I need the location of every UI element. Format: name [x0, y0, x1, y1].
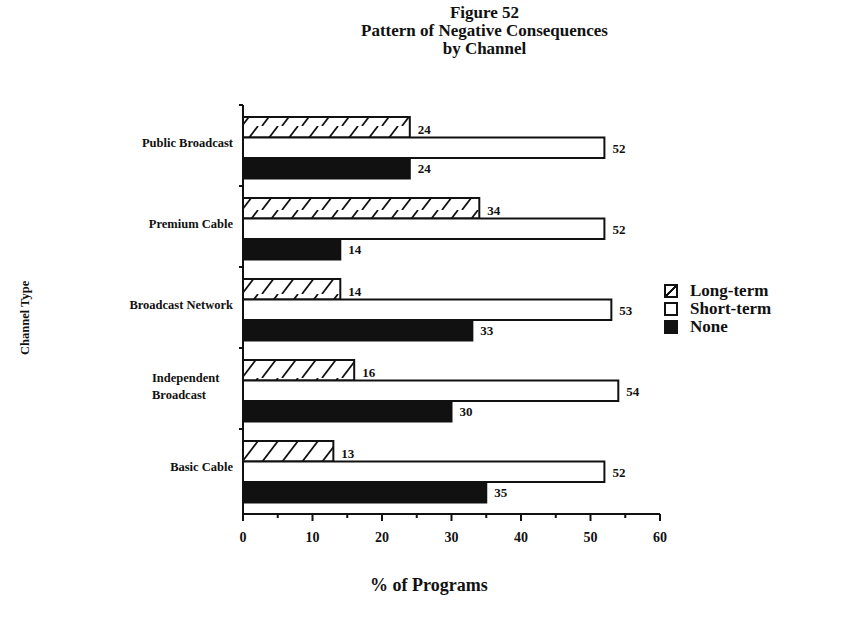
bars-group: 245224345214145333165430135235 [243, 117, 640, 503]
category-label: Public Broadcast [142, 135, 233, 152]
bar-value-label: 16 [362, 365, 376, 380]
bar-short-term [243, 300, 611, 321]
legend-item-none: None [664, 318, 728, 336]
bar-long-term [243, 117, 410, 138]
bar-long-term [243, 441, 333, 462]
x-tick-label: 20 [375, 530, 389, 545]
bar-value-label: 52 [612, 465, 625, 480]
bar-long-term [243, 360, 354, 381]
bar-none [243, 158, 410, 179]
legend-label: Long-term [690, 282, 768, 300]
x-tick-label: 40 [514, 530, 528, 545]
bar-none [243, 239, 340, 260]
bar-long-term [243, 279, 340, 300]
bar-short-term [243, 462, 604, 483]
bar-long-term [243, 198, 479, 219]
legend-swatch-icon [664, 320, 678, 334]
x-tick-label: 30 [445, 530, 459, 545]
bar-none [243, 482, 486, 503]
x-tick-label: 50 [584, 530, 598, 545]
bar-none [243, 320, 472, 341]
y-axis-title: Channel Type [18, 281, 33, 355]
category-label: Broadcast Network [129, 297, 233, 314]
x-tick-label: 0 [240, 530, 247, 545]
bar-short-term [243, 138, 604, 159]
bar-value-label: 30 [460, 404, 473, 419]
bar-value-label: 13 [341, 446, 355, 461]
category-label: Premium Cable [149, 216, 233, 233]
bar-value-label: 53 [619, 303, 633, 318]
legend-item-short-term: Short-term [664, 300, 771, 318]
legend-item-long-term: Long-term [664, 282, 768, 300]
bar-short-term [243, 219, 604, 240]
x-tick-label: 60 [653, 530, 667, 545]
bar-value-label: 35 [494, 485, 508, 500]
legend-label: None [690, 318, 728, 336]
bar-value-label: 52 [612, 141, 625, 156]
legend-label: Short-term [690, 300, 771, 318]
bar-none [243, 401, 452, 422]
bar-short-term [243, 381, 618, 402]
bar-value-label: 24 [418, 122, 432, 137]
bar-value-label: 33 [480, 323, 494, 338]
bar-value-label: 14 [348, 284, 362, 299]
legend-swatch-icon [664, 302, 678, 316]
category-label: Basic Cable [170, 459, 233, 476]
bar-value-label: 52 [612, 222, 625, 237]
legend-swatch-icon [664, 284, 678, 298]
bar-value-label: 54 [626, 384, 640, 399]
x-axis-title: % of Programs [370, 575, 488, 596]
category-label: IndependentBroadcast [152, 370, 219, 404]
bar-value-label: 14 [348, 242, 362, 257]
bar-value-label: 34 [487, 203, 501, 218]
x-tick-label: 10 [306, 530, 320, 545]
bar-value-label: 24 [418, 161, 432, 176]
